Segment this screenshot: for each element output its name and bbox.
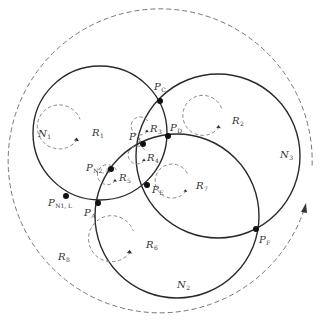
region-dashed-loop — [183, 95, 222, 135]
point-pa — [95, 200, 101, 206]
outer-region-boundary — [8, 9, 312, 313]
network-regions-diagram: R1R2R3R4R5R6R7 N1N2N3R8PAPBPCPDPEPFPN2, … — [0, 0, 320, 336]
point-pn1l — [63, 193, 69, 199]
region-r3: R3 — [131, 117, 162, 135]
point-label-pn1l: PN1, L — [47, 197, 72, 209]
network-label-n2: N2 — [176, 279, 190, 291]
point-label-pe: PE — [151, 184, 164, 196]
region-label-r4: R4 — [146, 152, 159, 164]
region-label-r1: R1 — [91, 127, 104, 139]
point-pd — [165, 133, 171, 139]
point-label-pn2l: PN2, L — [85, 162, 110, 174]
arrowhead-icon — [74, 138, 79, 142]
network-circles — [33, 66, 300, 298]
arrowhead-icon — [216, 125, 221, 128]
region-markers: R1R2R3R4R5R6R7 — [37, 95, 244, 261]
network-circle-n2 — [95, 134, 259, 298]
point-label-pf: PF — [258, 234, 270, 246]
region-label-r5: R5 — [118, 172, 131, 184]
arrowhead-icon — [113, 179, 117, 182]
region-r6: R6 — [89, 216, 158, 262]
arrowhead-icon — [145, 130, 149, 133]
network-label-n1: N1 — [37, 128, 51, 140]
point-pc — [157, 98, 163, 104]
point-label-pa: PA — [83, 207, 96, 219]
point-label-pc: PC — [153, 81, 166, 93]
region-r4: R4 — [128, 146, 159, 164]
region-r1: R1 — [37, 105, 104, 149]
region-label-r3: R3 — [149, 123, 162, 135]
network-label-n3: N3 — [279, 149, 293, 161]
point-pf — [253, 226, 259, 232]
point-label-pd: PD — [169, 122, 182, 134]
region-label-r8: R8 — [57, 251, 70, 263]
region-label-r7: R7 — [195, 180, 208, 192]
region-label-r2: R2 — [231, 115, 244, 127]
outer-dashed-arc — [8, 9, 312, 313]
region-dashed-loop — [37, 105, 80, 149]
arrowhead-icon — [142, 159, 146, 162]
region-r2: R2 — [183, 95, 244, 135]
point-pb — [140, 141, 146, 147]
arrowhead-icon — [301, 203, 307, 213]
arrowhead-icon — [183, 189, 187, 192]
arrowhead-icon — [127, 250, 132, 254]
point-pe — [144, 182, 150, 188]
region-label-r6: R6 — [145, 239, 158, 251]
